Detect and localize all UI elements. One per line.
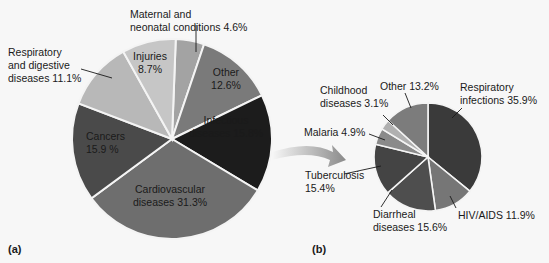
- slice-label: Childhooddiseases 3.1%: [320, 84, 388, 109]
- pie-chart-a: Maternal andneonatal conditions 4.6%Othe…: [8, 8, 272, 239]
- pie-charts-figure: Maternal andneonatal conditions 4.6%Othe…: [0, 0, 549, 263]
- slice-label: HIV/AIDS 11.9%: [458, 209, 535, 221]
- slice-label: Other12.6%: [211, 66, 241, 91]
- slice-label: Cardiovasculardiseases 31.3%: [133, 183, 207, 208]
- panel-label-a: (a): [8, 243, 22, 255]
- connector-arrow: [272, 145, 346, 167]
- slice-label: Respiratoryinfections 35.9%: [460, 81, 537, 106]
- slice-label: Respiratoryand digestivediseases 11.1%: [8, 46, 81, 84]
- slice-label: Maternal andneonatal conditions 4.6%: [130, 8, 247, 33]
- leader-line: [405, 93, 411, 108]
- slice-label: Tuberculosis15.4%: [305, 169, 364, 194]
- slice-label: Other 13.2%: [380, 80, 439, 92]
- slice-label: Malaria 4.9%: [304, 126, 365, 138]
- slice-label: Injuries8.7%: [133, 50, 167, 75]
- panel-label-b: (b): [312, 243, 326, 255]
- slice-label: Diarrhealdiseases 15.6%: [373, 208, 447, 233]
